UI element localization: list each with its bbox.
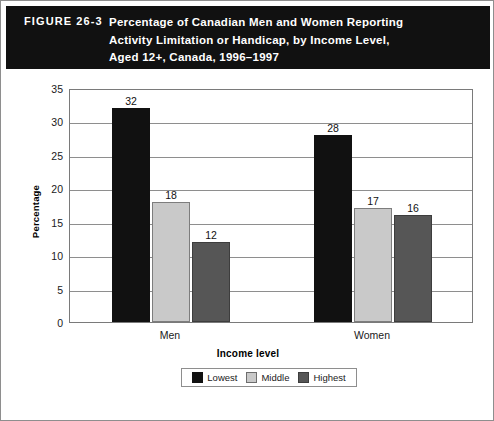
bar-men-lowest [112, 108, 150, 322]
legend-item-middle: Middle [246, 372, 289, 383]
y-axis-tick-label: 15 [23, 217, 63, 229]
y-axis-tick-label: 35 [23, 83, 63, 95]
bar-value-label: 28 [311, 122, 355, 134]
y-axis-tick-label: 0 [23, 317, 63, 329]
y-axis-tick-label: 30 [23, 116, 63, 128]
bar-value-label: 17 [351, 195, 395, 207]
figure-title: Percentage of Canadian Men and Women Rep… [109, 14, 479, 67]
plot-area: 321812281716 [69, 89, 473, 323]
figure-number-label: FIGURE 26-3 [24, 15, 103, 27]
bar-men-middle [152, 202, 190, 322]
legend-swatch-icon [298, 372, 309, 383]
legend-label: Highest [313, 372, 345, 383]
bar-value-label: 32 [109, 95, 153, 107]
chart-area: Percentage 05101520253035 321812281716 M… [1, 69, 494, 421]
legend-item-highest: Highest [298, 372, 345, 383]
y-axis-tick-label: 10 [23, 250, 63, 262]
legend-label: Middle [261, 372, 289, 383]
legend-item-lowest: Lowest [192, 372, 237, 383]
legend-swatch-icon [192, 372, 203, 383]
bar-women-highest [394, 215, 432, 322]
bar-value-label: 18 [149, 189, 193, 201]
bar-value-label: 12 [189, 229, 233, 241]
x-axis-category-label: Men [110, 329, 230, 341]
bar-men-highest [192, 242, 230, 322]
legend-label: Lowest [207, 372, 237, 383]
bar-women-middle [354, 208, 392, 322]
bar-value-label: 16 [391, 202, 435, 214]
y-axis-tick-label: 5 [23, 284, 63, 296]
bar-women-lowest [314, 135, 352, 322]
figure-header-band: FIGURE 26-3 Percentage of Canadian Men a… [6, 6, 490, 69]
x-axis-title: Income level [1, 348, 494, 359]
y-axis-tick-label: 25 [23, 150, 63, 162]
figure-title-line-1: Percentage of Canadian Men and Women Rep… [109, 14, 479, 32]
legend-swatch-icon [246, 372, 257, 383]
x-axis-category-label: Women [312, 329, 432, 341]
figure-title-line-2: Activity Limitation or Handicap, by Inco… [109, 32, 479, 50]
chart-legend: LowestMiddleHighest [181, 368, 357, 387]
figure-container: FIGURE 26-3 Percentage of Canadian Men a… [0, 0, 494, 421]
figure-title-line-3: Aged 12+, Canada, 1996–1997 [109, 49, 479, 67]
y-axis-tick-label: 20 [23, 183, 63, 195]
